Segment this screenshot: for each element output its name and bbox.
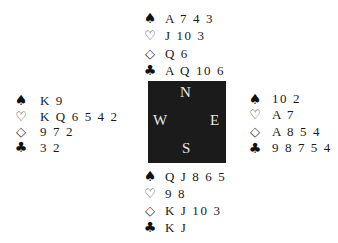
club-icon: ♣ [143, 219, 157, 236]
south-diamonds: K J 10 3 [165, 202, 222, 219]
heart-icon: ♡ [14, 109, 28, 125]
heart-icon: ♡ [143, 185, 157, 202]
south-hearts: 9 8 [165, 185, 186, 202]
heart-icon: ♡ [143, 27, 157, 44]
east-spades: 10 2 [272, 91, 301, 107]
south-spades: Q J 8 6 5 [165, 168, 226, 185]
west-hearts: K Q 6 5 4 2 [40, 109, 119, 125]
compass-south-label: S [182, 141, 190, 156]
east-hearts: A 7 [272, 107, 295, 123]
club-icon: ♣ [143, 62, 157, 79]
north-spades: A 7 4 3 [165, 10, 214, 27]
diamond-icon: ◇ [143, 45, 157, 62]
west-diamonds: 9 7 2 [40, 124, 74, 140]
north-clubs: A Q 10 6 [165, 62, 225, 79]
west-clubs: 3 2 [40, 140, 61, 156]
compass-box: N W E S [148, 81, 226, 163]
spade-icon: ♠ [143, 10, 157, 27]
diamond-icon: ◇ [248, 124, 262, 140]
diamond-icon: ◇ [14, 124, 28, 140]
compass-east-label: E [210, 113, 219, 128]
west-spades: K 9 [40, 93, 64, 109]
club-icon: ♣ [248, 140, 262, 156]
compass-west-label: W [153, 113, 167, 128]
north-diamonds: Q 6 [165, 45, 189, 62]
north-hearts: J 10 3 [165, 27, 206, 44]
spade-icon: ♠ [248, 91, 262, 107]
diamond-icon: ◇ [143, 202, 157, 219]
south-clubs: K J [165, 219, 188, 236]
spade-icon: ♠ [14, 93, 28, 109]
club-icon: ♣ [14, 140, 28, 156]
spade-icon: ♠ [143, 168, 157, 185]
compass-north-label: N [180, 85, 191, 100]
east-clubs: 9 8 7 5 4 [272, 140, 332, 156]
east-diamonds: A 8 5 4 [272, 124, 321, 140]
heart-icon: ♡ [248, 107, 262, 123]
